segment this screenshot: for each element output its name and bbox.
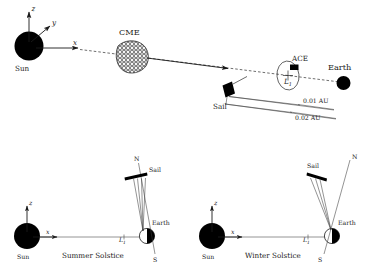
sail-sun-cone-bl bbox=[134, 178, 146, 231]
pole-south-label-br: S bbox=[318, 256, 322, 263]
axis-y-label-top: y bbox=[51, 18, 57, 27]
axis-x-label-top: x bbox=[73, 38, 77, 47]
pole-north-label-bl: N bbox=[134, 155, 140, 162]
earth-body-bl bbox=[139, 228, 154, 243]
axis-z-label-br: z bbox=[213, 199, 218, 206]
winter-solstice-caption: Winter Solstice bbox=[245, 251, 301, 260]
sun-label-bl: Sun bbox=[17, 253, 29, 260]
sail-label-bl: Sail bbox=[149, 166, 161, 173]
ace-label: ACE bbox=[291, 54, 308, 63]
sail-label-top: Sail bbox=[213, 102, 228, 111]
top-panel-group bbox=[15, 12, 351, 119]
sail-br bbox=[307, 173, 328, 182]
cme-propagation-arrow bbox=[147, 58, 228, 69]
cme-blob bbox=[116, 41, 148, 73]
pole-south-label-bl: S bbox=[153, 256, 157, 263]
l1-label-br: L1 bbox=[302, 236, 310, 245]
bottom-right-panel-group bbox=[199, 160, 350, 254]
earth-label-br: Earth bbox=[338, 219, 356, 226]
cme-label: CME bbox=[119, 27, 140, 37]
sail-top bbox=[223, 77, 248, 98]
distance-label-001au: 0.01 AU bbox=[303, 97, 328, 104]
earth-body-top bbox=[337, 76, 351, 90]
earth-label-bl: Earth bbox=[152, 219, 170, 226]
sun-label-top: Sun bbox=[15, 64, 30, 73]
axis-x-label-br: x bbox=[231, 228, 235, 235]
axis-z-label-bl: z bbox=[28, 199, 33, 206]
ace-spacecraft-box bbox=[290, 65, 299, 71]
earth-label-top: Earth bbox=[328, 62, 352, 72]
sail-sun-cone-br bbox=[311, 178, 332, 230]
figure-canvas: Sun z y x CME Sail ACE L1 Earth 0.01 AU … bbox=[0, 0, 370, 269]
summer-solstice-caption: Summer Solstice bbox=[62, 251, 124, 260]
distance-label-002au: 0.02 AU bbox=[295, 114, 320, 121]
bottom-left-panel-group bbox=[14, 163, 155, 254]
earth-body-br bbox=[324, 228, 339, 243]
l1-label-bl: L1 bbox=[118, 236, 126, 245]
sail-bl bbox=[125, 173, 148, 181]
l1-label-top: L1 bbox=[283, 77, 292, 87]
diagram-svg: Sun z y x CME Sail ACE L1 Earth 0.01 AU … bbox=[0, 0, 370, 269]
sun-label-br: Sun bbox=[202, 253, 214, 260]
pole-north-label-br: N bbox=[352, 153, 358, 160]
axis-z-label-top: z bbox=[31, 4, 36, 13]
sail-label-br: Sail bbox=[307, 162, 319, 169]
axis-x-label-bl: x bbox=[46, 228, 50, 235]
